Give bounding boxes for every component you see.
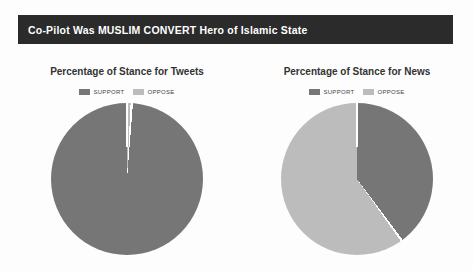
chart-title-tweets: Percentage of Stance for Tweets xyxy=(27,66,227,77)
chart-title-news: Percentage of Stance for News xyxy=(257,66,457,77)
pie-chart-news: Percentage of Stance for News SUPPORT OP… xyxy=(257,60,457,265)
legend-label-oppose: OPPOSE xyxy=(377,89,404,95)
support-swatch-icon xyxy=(309,89,320,95)
support-swatch-icon xyxy=(79,89,90,95)
oppose-swatch-icon xyxy=(363,89,374,95)
legend-news: SUPPORT OPPOSE xyxy=(257,87,457,97)
legend-label-support: SUPPORT xyxy=(323,89,354,95)
pie-tweets[interactable] xyxy=(51,103,203,255)
legend-item-support[interactable]: SUPPORT xyxy=(309,89,354,95)
legend-label-oppose: OPPOSE xyxy=(147,89,174,95)
legend-item-support[interactable]: SUPPORT xyxy=(79,89,124,95)
legend-item-oppose[interactable]: OPPOSE xyxy=(363,89,404,95)
pie-chart-tweets: Percentage of Stance for Tweets SUPPORT … xyxy=(27,60,227,265)
headline-banner: Co-Pilot Was MUSLIM CONVERT Hero of Isla… xyxy=(18,15,453,44)
legend-tweets: SUPPORT OPPOSE xyxy=(27,87,227,97)
legend-item-oppose[interactable]: OPPOSE xyxy=(133,89,174,95)
legend-label-support: SUPPORT xyxy=(93,89,124,95)
headline-text: Co-Pilot Was MUSLIM CONVERT Hero of Isla… xyxy=(28,24,308,36)
page: Co-Pilot Was MUSLIM CONVERT Hero of Isla… xyxy=(0,0,473,271)
pie-news[interactable] xyxy=(281,103,433,255)
oppose-swatch-icon xyxy=(133,89,144,95)
